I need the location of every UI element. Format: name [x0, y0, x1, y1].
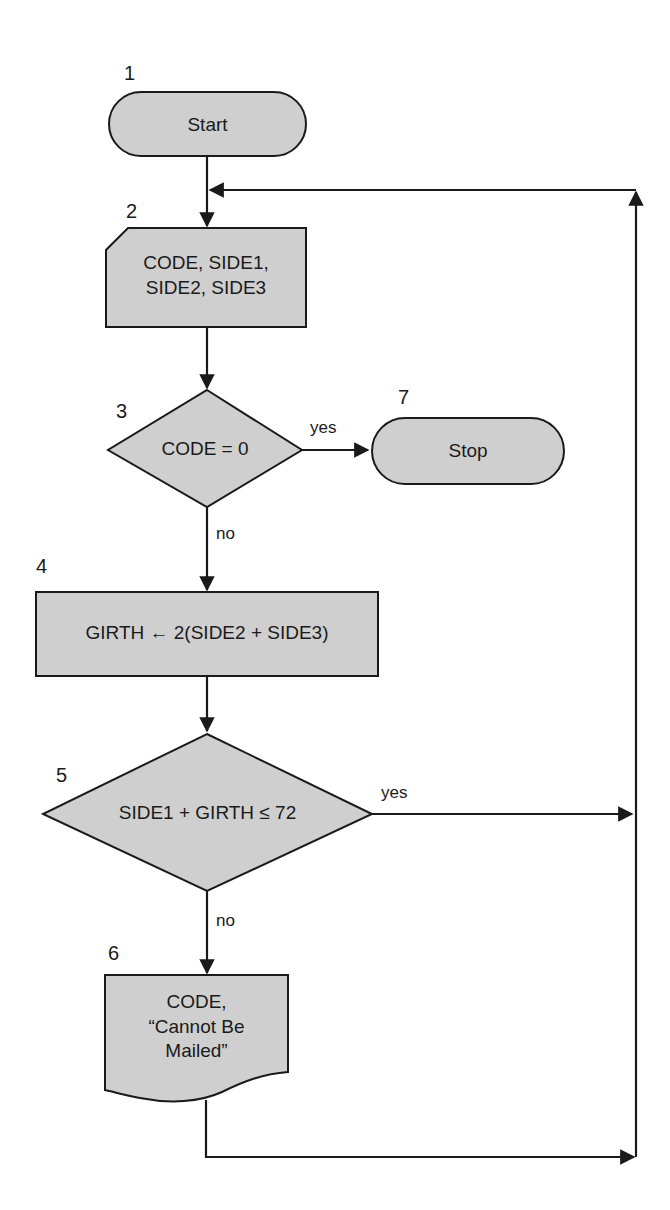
output-line-2: “Cannot Be: [105, 1015, 288, 1040]
edge-label-yes-5: yes: [381, 783, 407, 803]
output-line-3: Mailed”: [105, 1039, 288, 1064]
start-label: Start: [109, 113, 306, 138]
node-number-1: 1: [124, 62, 135, 85]
edge-label-yes-3: yes: [310, 418, 336, 438]
input-line-2: SIDE2, SIDE3: [106, 276, 306, 301]
input-line-1: CODE, SIDE1,: [106, 251, 306, 276]
node-number-5: 5: [56, 764, 67, 787]
connector-output-to-loop: [206, 1100, 634, 1157]
edge-label-no-5: no: [216, 911, 235, 931]
node-number-7: 7: [398, 386, 409, 409]
stop-label: Stop: [372, 439, 564, 464]
flowchart-canvas: [0, 0, 670, 1210]
decision-size-check-text: SIDE1 + GIRTH ≤ 72: [43, 801, 372, 826]
node-number-3: 3: [116, 400, 127, 423]
output-line-1: CODE,: [105, 990, 288, 1015]
node-number-2: 2: [126, 200, 137, 223]
node-number-6: 6: [108, 942, 119, 965]
process-girth-text: GIRTH ← 2(SIDE2 + SIDE3): [36, 621, 378, 646]
output-document-text: CODE, “Cannot Be Mailed”: [105, 990, 288, 1064]
input-card-text: CODE, SIDE1, SIDE2, SIDE3: [106, 251, 306, 300]
node-number-4: 4: [36, 555, 47, 578]
edge-label-no-3: no: [216, 524, 235, 544]
decision-code-zero-text: CODE = 0: [108, 437, 302, 462]
